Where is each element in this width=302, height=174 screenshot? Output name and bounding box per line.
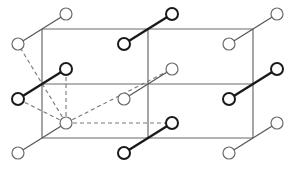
atom-lower — [223, 38, 235, 50]
grid-lines — [42, 29, 253, 138]
atom-lower — [223, 93, 235, 105]
atom-upper — [271, 8, 283, 20]
atom-lower — [12, 93, 24, 105]
atom-upper — [271, 117, 283, 129]
atom-upper — [166, 117, 178, 129]
atom-lower — [118, 147, 130, 159]
atom-upper — [60, 8, 72, 20]
atom-lower — [118, 93, 130, 105]
atom-lower — [12, 147, 24, 159]
atom-upper — [166, 8, 178, 20]
atom-upper — [271, 63, 283, 75]
atom-upper — [60, 63, 72, 75]
atom-lower — [12, 38, 24, 50]
lattice-diagram — [0, 0, 302, 174]
atom-lower — [223, 147, 235, 159]
atom-lower — [118, 38, 130, 50]
atom-upper — [166, 63, 178, 75]
atom-upper — [60, 117, 72, 129]
